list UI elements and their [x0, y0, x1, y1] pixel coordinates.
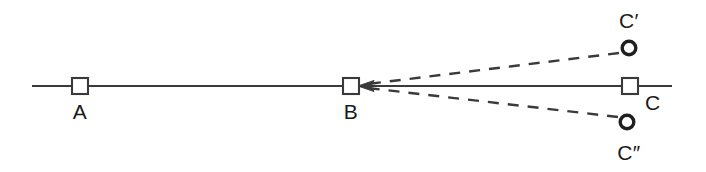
- dashed-ray-to-c-prime: [372, 53, 619, 84]
- marker-point-c-double-prime: [620, 115, 634, 129]
- dashed-ray-to-c-double-prime: [372, 89, 618, 118]
- label-point-c-double-prime: C″: [617, 141, 641, 164]
- label-point-b: B: [344, 100, 359, 123]
- marker-point-c-prime: [622, 41, 636, 55]
- figure-svg: A B C C′ C″: [0, 0, 706, 172]
- marker-point-b: [343, 78, 359, 94]
- marker-point-c: [622, 78, 638, 94]
- marker-point-a: [72, 78, 88, 94]
- geometry-diagram-canvas: A B C C′ C″: [0, 0, 706, 172]
- label-point-a: A: [73, 100, 88, 123]
- label-point-c-prime: C′: [619, 9, 639, 32]
- label-point-c: C: [645, 91, 661, 114]
